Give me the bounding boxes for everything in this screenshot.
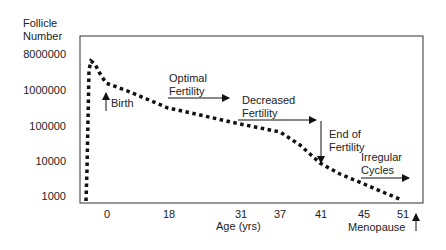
annotation-birth: Birth	[111, 97, 134, 110]
annotation-irregular-line1: Irregular	[361, 151, 402, 164]
annotation-menopause: Menopause	[348, 221, 406, 234]
annotation-decreased-line2: Fertility	[242, 107, 295, 120]
annotation-end-of-fertility: End of Fertility	[329, 128, 364, 154]
annotation-end-line1: End of	[329, 128, 364, 141]
annotation-decreased-line1: Decreased	[242, 94, 295, 107]
annotation-optimal-fertility: Optimal Fertility	[169, 72, 207, 98]
chart-plot-area	[0, 0, 446, 250]
annotation-irregular-cycles: Irregular Cycles	[361, 151, 402, 177]
annotation-end-line2: Fertility	[329, 141, 364, 154]
annotation-decreased-fertility: Decreased Fertility	[242, 94, 295, 120]
annotation-optimal-line1: Optimal	[169, 72, 207, 85]
annotation-optimal-line2: Fertility	[169, 85, 207, 98]
annotation-irregular-line2: Cycles	[361, 164, 402, 177]
